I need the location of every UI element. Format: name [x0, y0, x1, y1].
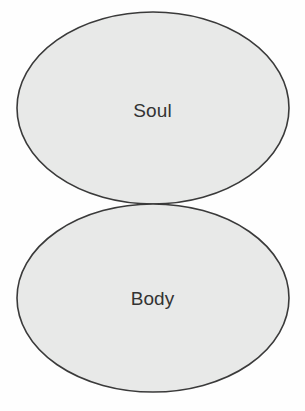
- diagram-canvas: Soul Body: [0, 0, 305, 411]
- diagram-svg: [0, 0, 305, 411]
- soul-ellipse[interactable]: [17, 12, 289, 204]
- body-ellipse[interactable]: [17, 204, 289, 392]
